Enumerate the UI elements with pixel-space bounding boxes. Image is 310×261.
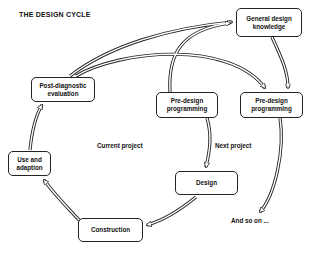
arrow-use-to-post xyxy=(30,105,42,150)
node-use-and-adaption: Use and adaption xyxy=(8,151,51,176)
label-next-project: Next project xyxy=(215,142,251,149)
node-construction: Construction xyxy=(78,218,143,242)
node-predesign-current: Pre-design programming xyxy=(156,92,218,118)
label-and-so-on: And so on ... xyxy=(231,217,269,224)
node-general-design-knowledge: General design knowledge xyxy=(236,8,302,37)
node-predesign-next: Pre-design programming xyxy=(240,92,303,118)
arrow-design-to-construction xyxy=(147,197,196,225)
node-post-diagnostic-evaluation: Post-diagnostic evaluation xyxy=(31,77,95,102)
label-current-project: Current project xyxy=(97,142,142,149)
arrow-general-to-predesign-next xyxy=(272,37,288,88)
diagram-title: THE DESIGN CYCLE xyxy=(19,11,91,18)
node-design: Design xyxy=(175,171,238,195)
